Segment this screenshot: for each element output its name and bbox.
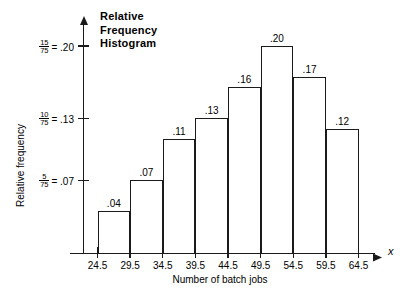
y-tick-value: = .13 bbox=[49, 114, 74, 125]
histogram-bar bbox=[326, 129, 359, 253]
bar-value-label: .17 bbox=[290, 64, 330, 75]
histogram-bar bbox=[163, 139, 196, 253]
x-axis-variable-label: x bbox=[388, 245, 394, 257]
y-tick-fraction: 1075 bbox=[39, 111, 49, 127]
y-axis-tick-label: 1075= .13 bbox=[22, 111, 74, 127]
y-axis-arrow-icon bbox=[80, 16, 88, 25]
bar-value-label: .12 bbox=[322, 116, 362, 127]
x-axis-tick-label: 64.5 bbox=[339, 260, 379, 271]
y-axis-line bbox=[83, 24, 84, 253]
histogram-bar bbox=[195, 118, 228, 252]
histogram-bar bbox=[98, 211, 131, 252]
bar-value-label: .20 bbox=[257, 33, 297, 44]
bar-value-label: .16 bbox=[224, 74, 264, 85]
plot-area: x 575= .071075= .131575= .20 24.529.534.… bbox=[0, 0, 417, 296]
y-tick-value: = .20 bbox=[49, 42, 74, 53]
histogram-bar bbox=[261, 46, 294, 253]
y-axis-title: Relative frequency bbox=[15, 101, 26, 231]
bar-value-label: .07 bbox=[126, 167, 166, 178]
y-axis-tick-label: 575= .07 bbox=[22, 173, 74, 189]
bar-value-label: .11 bbox=[159, 126, 199, 137]
y-tick-fraction: 1575 bbox=[39, 39, 49, 55]
y-tick-fraction: 575 bbox=[39, 173, 49, 189]
bar-value-label: .13 bbox=[192, 105, 232, 116]
y-axis-tick bbox=[78, 180, 89, 181]
y-axis-tick bbox=[78, 45, 89, 46]
y-tick-value: = .07 bbox=[49, 176, 74, 187]
histogram-bar bbox=[130, 180, 163, 252]
relative-frequency-histogram-figure: Relative Frequency Histogram x 575= .071… bbox=[0, 0, 417, 296]
y-axis-tick bbox=[78, 118, 89, 119]
histogram-bar bbox=[293, 77, 326, 253]
x-axis-title: Number of batch jobs bbox=[120, 274, 320, 285]
bar-value-label: .04 bbox=[94, 198, 134, 209]
y-axis-tick-label: 1575= .20 bbox=[22, 39, 74, 55]
histogram-bar bbox=[228, 87, 261, 252]
